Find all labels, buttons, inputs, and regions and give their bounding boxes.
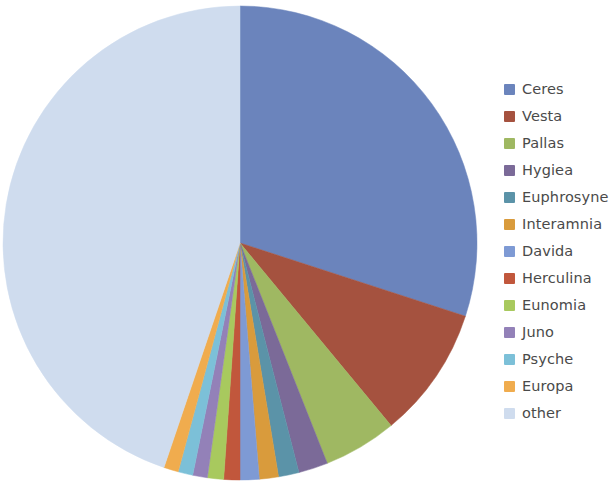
legend-item[interactable]: Juno <box>504 319 610 346</box>
legend-item-label: Euphrosyne <box>522 184 609 211</box>
legend-item[interactable]: Interamnia <box>504 211 610 238</box>
legend-swatch-icon <box>504 165 515 176</box>
legend-item-label: Davida <box>522 238 573 265</box>
pie-plot-area <box>0 0 486 485</box>
legend-item-label: other <box>522 400 561 427</box>
legend-item[interactable]: Davida <box>504 238 610 265</box>
legend-item-label: Interamnia <box>522 211 602 238</box>
legend-item-label: Pallas <box>522 130 564 157</box>
legend-item[interactable]: Hygiea <box>504 157 610 184</box>
legend-item[interactable]: Psyche <box>504 346 610 373</box>
pie-slice-group <box>3 6 477 480</box>
legend-swatch-icon <box>504 327 515 338</box>
legend-swatch-icon <box>504 84 515 95</box>
legend-item-label: Ceres <box>522 76 564 103</box>
chart-legend: CeresVestaPallasHygieaEuphrosyneInteramn… <box>504 76 610 427</box>
legend-swatch-icon <box>504 354 515 365</box>
pie-svg <box>0 0 486 485</box>
legend-item[interactable]: Ceres <box>504 76 610 103</box>
legend-item[interactable]: Euphrosyne <box>504 184 610 211</box>
legend-item[interactable]: Europa <box>504 373 610 400</box>
legend-item-label: Herculina <box>522 265 592 292</box>
legend-swatch-icon <box>504 408 515 419</box>
legend-item-label: Hygiea <box>522 157 573 184</box>
legend-swatch-icon <box>504 246 515 257</box>
legend-item[interactable]: Vesta <box>504 103 610 130</box>
legend-swatch-icon <box>504 300 515 311</box>
legend-item-label: Juno <box>522 319 554 346</box>
legend-item-label: Europa <box>522 373 574 400</box>
legend-item[interactable]: Pallas <box>504 130 610 157</box>
legend-item-label: Eunomia <box>522 292 586 319</box>
legend-swatch-icon <box>504 219 515 230</box>
legend-swatch-icon <box>504 273 515 284</box>
legend-item[interactable]: other <box>504 400 610 427</box>
legend-item[interactable]: Herculina <box>504 265 610 292</box>
legend-swatch-icon <box>504 381 515 392</box>
legend-swatch-icon <box>504 111 515 122</box>
pie-chart: CeresVestaPallasHygieaEuphrosyneInteramn… <box>0 0 610 485</box>
legend-item[interactable]: Eunomia <box>504 292 610 319</box>
legend-swatch-icon <box>504 138 515 149</box>
legend-item-label: Psyche <box>522 346 573 373</box>
legend-item-label: Vesta <box>522 103 562 130</box>
legend-swatch-icon <box>504 192 515 203</box>
